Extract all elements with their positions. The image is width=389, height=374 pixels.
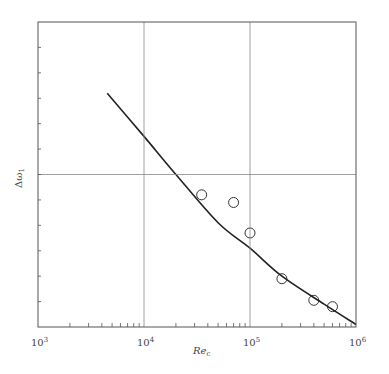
chart: 103104105106 Rec Δω1 — [0, 0, 389, 374]
fit-curve — [107, 93, 356, 324]
data-point-circle — [197, 190, 207, 200]
x-tick-label: 105 — [243, 336, 260, 348]
data-point-circle — [229, 197, 239, 207]
x-tick-label: 106 — [349, 336, 367, 348]
y-axis-label: Δω1 — [13, 168, 26, 188]
x-tick-label: 103 — [31, 336, 48, 348]
plot-area — [107, 93, 356, 324]
x-tick-label: 104 — [137, 336, 155, 348]
x-axis-label: Rec — [192, 345, 210, 358]
